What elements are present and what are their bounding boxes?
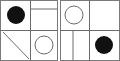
figure-canvas xyxy=(0,0,120,61)
left-panel xyxy=(0,0,58,61)
right-panel xyxy=(60,0,120,61)
right-panel-graphic xyxy=(60,0,120,61)
left-panel-graphic xyxy=(0,0,58,61)
filled-circle-icon xyxy=(95,36,113,54)
filled-circle-icon xyxy=(7,6,25,24)
